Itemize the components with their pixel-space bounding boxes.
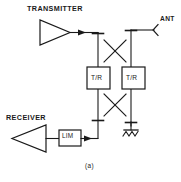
figure-caption: (a): [85, 162, 94, 169]
figure-root: TRANSMITTER RECEIVER ANT T/R T/R LIM (a): [0, 0, 181, 182]
receiver-label: RECEIVER: [6, 113, 46, 122]
tr-switch-left-label: T/R: [91, 74, 102, 81]
receiver-flow-arrow-icon: [84, 136, 92, 142]
antenna-connector-icon: [153, 25, 158, 36]
antenna-label: ANT: [160, 15, 175, 22]
receiver-amplifier-symbol: [12, 125, 46, 152]
transmitter-amplifier-symbol: [40, 20, 70, 45]
limiter-label: LIM: [62, 132, 73, 139]
transmitter-flow-arrow-icon: [78, 30, 86, 36]
tr-switch-right-label: T/R: [126, 74, 137, 81]
transmitter-label: TRANSMITTER: [27, 4, 83, 13]
termination-resistor-icon: [123, 132, 138, 137]
circuit-diagram: [0, 0, 181, 182]
